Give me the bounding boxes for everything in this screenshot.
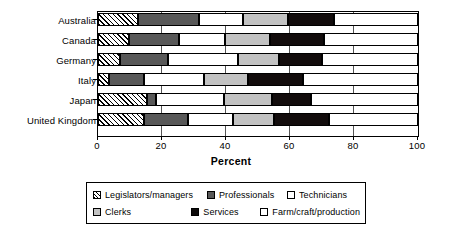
stacked-bar-chart: Australia Canada Germany Italy Japan Uni… [0, 0, 452, 232]
segment-clerks [238, 53, 279, 66]
y-axis-label-canada: Canada [62, 35, 96, 46]
x-tick-label-40: 40 [205, 140, 245, 151]
bar-germany [98, 53, 418, 66]
segment-legislators-managers [98, 53, 120, 66]
y-axis-label-australia: Australia [58, 15, 96, 26]
segment-legislators-managers [98, 73, 109, 86]
segment-technicians [168, 53, 238, 66]
bar-japan [98, 93, 418, 106]
y-axis-label-japan: Japan [70, 95, 96, 106]
segment-services [274, 113, 329, 126]
legend-label-clerks: Clerks [105, 207, 131, 217]
segment-technicians [156, 93, 224, 106]
legend-item-services: Services [191, 207, 260, 217]
segment-technicians [188, 113, 234, 126]
segment-technicians [144, 73, 204, 86]
segment-professionals [109, 73, 145, 86]
y-axis-label-italy: Italy [78, 75, 96, 86]
x-tick-label-20: 20 [141, 140, 181, 151]
x-axis-title-text: Percent [211, 155, 252, 167]
legend-row-1: Legislators/managers Professionals Techn… [93, 186, 360, 203]
segment-legislators-managers [98, 13, 138, 26]
x-tick-label-0: 0 [77, 140, 117, 151]
segment-farm-craft-production [324, 33, 418, 46]
segment-clerks [225, 33, 270, 46]
segment-clerks [224, 93, 272, 106]
x-axis-title: Percent [0, 155, 452, 167]
legend-item-legislators-managers: Legislators/managers [93, 190, 207, 200]
segment-farm-craft-production [329, 113, 418, 126]
segment-professionals [147, 93, 156, 106]
segment-clerks [204, 73, 248, 86]
segment-legislators-managers [98, 93, 147, 106]
legend-item-farm-craft-production: Farm/craft/production [260, 207, 360, 217]
bar-italy [98, 73, 418, 86]
y-axis-label-germany: Germany [56, 55, 96, 66]
light-gray-swatch-icon [93, 208, 101, 216]
chart-legend: Legislators/managers Professionals Techn… [86, 182, 366, 224]
legend-label-farm-craft-production: Farm/craft/production [272, 207, 360, 217]
bar-australia [98, 13, 418, 26]
x-tick-label-60: 60 [269, 140, 309, 151]
segment-legislators-managers [98, 33, 129, 46]
legend-item-professionals: Professionals [207, 190, 287, 200]
segment-legislators-managers [98, 113, 144, 126]
segment-services [270, 33, 323, 46]
legend-label-services: Services [203, 207, 238, 217]
x-tick-label-100: 100 [397, 140, 437, 151]
legend-item-clerks: Clerks [93, 207, 191, 217]
white-swatch-icon [287, 191, 295, 199]
segment-farm-craft-production [303, 73, 418, 86]
segment-technicians [199, 13, 242, 26]
y-axis-label-united-kingdom: United Kingdom [27, 115, 96, 126]
segment-technicians [179, 33, 225, 46]
legend-row-2: Clerks Services Farm/craft/production [93, 203, 360, 220]
black-swatch-icon [191, 208, 199, 216]
segment-services [288, 13, 334, 26]
segment-services [279, 53, 322, 66]
segment-professionals [144, 113, 187, 126]
legend-label-legislators-managers: Legislators/managers [105, 190, 193, 200]
x-tick-label-80: 80 [333, 140, 373, 151]
segment-farm-craft-production [334, 13, 418, 26]
segment-farm-craft-production [311, 93, 418, 106]
segment-professionals [129, 33, 179, 46]
dotted-swatch-icon [260, 208, 268, 216]
segment-services [272, 93, 311, 106]
legend-item-technicians: Technicians [287, 190, 347, 200]
legend-label-professionals: Professionals [219, 190, 274, 200]
segment-services [248, 73, 303, 86]
legend-label-technicians: Technicians [299, 190, 347, 200]
segment-clerks [233, 113, 274, 126]
hatch-swatch-icon [93, 191, 101, 199]
segment-clerks [243, 13, 288, 26]
segment-professionals [138, 13, 200, 26]
segment-farm-craft-production [322, 53, 418, 66]
dark-gray-swatch-icon [207, 191, 215, 199]
bar-united-kingdom [98, 113, 418, 126]
segment-professionals [120, 53, 168, 66]
bar-canada [98, 33, 418, 46]
